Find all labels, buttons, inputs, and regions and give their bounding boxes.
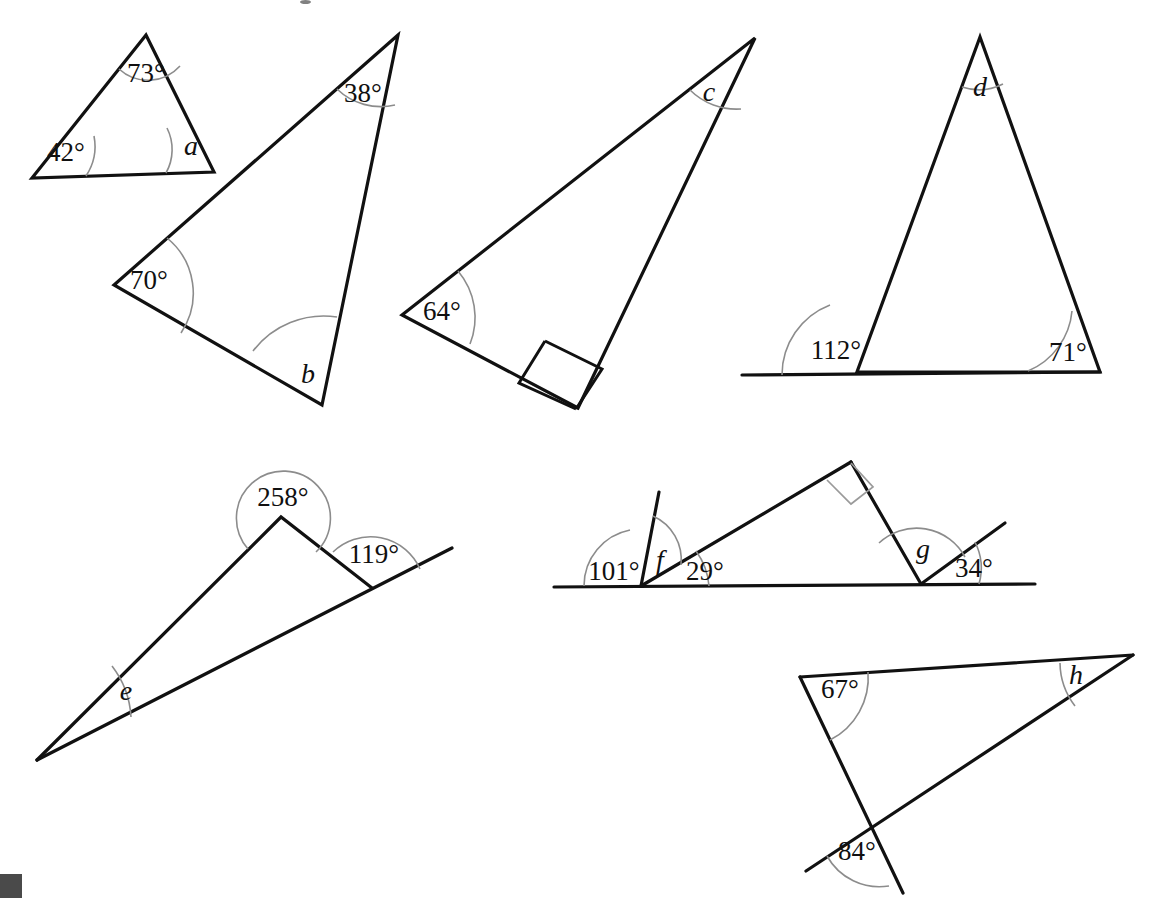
figure-triangle-d: d 112° 71° — [742, 37, 1100, 375]
label-64-degrees: 64° — [423, 296, 461, 326]
page-corner-block — [0, 874, 22, 898]
figure-right-triangle-c: c 64° — [402, 38, 755, 409]
label-angle-a: a — [184, 130, 198, 161]
label-101-degrees: 101° — [588, 556, 639, 586]
label-71-degrees: 71° — [1049, 337, 1087, 367]
figure-triangle-a: 73° 42° a — [32, 35, 214, 178]
figure-crossed-lines-h: 67° h 84° — [800, 655, 1133, 893]
label-34-degrees: 34° — [955, 553, 993, 583]
figure-angles-on-line-f-g: 101° f 29° g 34° — [554, 462, 1035, 587]
triangle-hypotenuse-fg — [641, 462, 851, 586]
label-67-degrees: 67° — [821, 674, 859, 704]
reflex-shape-outline — [37, 517, 372, 760]
geometry-diagram-canvas: 73° 42° a 38° 70° b c 64° — [0, 0, 1159, 898]
label-119-degrees: 119° — [349, 539, 399, 569]
page-artifact-speck — [300, 0, 311, 4]
base-line-extension-d — [742, 372, 1100, 375]
reflex-long-base-line — [37, 548, 452, 760]
label-angle-b: b — [301, 358, 315, 389]
right-angle-square-fg — [827, 463, 873, 504]
triangle-right-side-fg — [851, 462, 921, 584]
label-70-degrees: 70° — [130, 265, 168, 295]
label-angle-e: e — [120, 675, 132, 706]
label-angle-d: d — [973, 71, 988, 102]
label-42-degrees: 42° — [47, 137, 85, 167]
arc-42-degrees — [86, 136, 95, 176]
label-84-degrees: 84° — [838, 836, 876, 866]
label-29-degrees: 29° — [686, 556, 724, 586]
arc-angle-b — [253, 316, 337, 351]
arc-angle-a — [166, 128, 172, 173]
label-112-degrees: 112° — [811, 335, 861, 365]
label-angle-g: g — [916, 533, 930, 564]
label-angle-c: c — [703, 76, 716, 107]
label-38-degrees: 38° — [344, 78, 382, 108]
label-258-degrees: 258° — [257, 482, 308, 512]
worksheet-page: 73° 42° a 38° 70° b c 64° — [0, 0, 1159, 898]
figure-triangle-b: 38° 70° b — [114, 35, 398, 405]
label-angle-h: h — [1069, 659, 1083, 690]
arc-angle-c — [690, 90, 741, 109]
figure-reflex-angle-e: 258° 119° e — [37, 471, 452, 760]
label-73-degrees: 73° — [127, 58, 165, 88]
